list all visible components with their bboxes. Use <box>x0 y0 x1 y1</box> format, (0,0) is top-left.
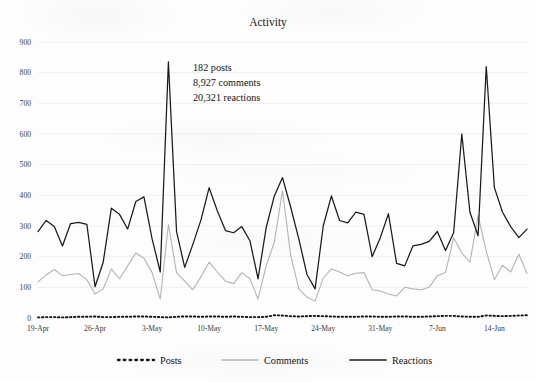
x-tick-label: 26-Apr <box>84 324 106 333</box>
activity-chart: Activity 0100200300400500600700800900 19… <box>0 0 537 382</box>
chart-svg: Activity 0100200300400500600700800900 19… <box>0 0 537 382</box>
chart-legend: PostsCommentsReactions <box>118 355 432 366</box>
y-tick-label: 600 <box>20 130 32 139</box>
legend-label-reactions: Reactions <box>392 355 432 366</box>
y-tick-label: 200 <box>20 252 32 261</box>
x-tick-label: 17-May <box>254 324 278 333</box>
x-tick-label: 19-Apr <box>27 324 49 333</box>
x-tick-label: 31-May <box>368 324 392 333</box>
y-tick-label: 100 <box>20 283 32 292</box>
annotation-posts: 182 posts <box>193 62 232 73</box>
x-tick-label: 3-May <box>142 324 162 333</box>
legend-label-posts: Posts <box>160 355 182 366</box>
legend-label-comments: Comments <box>264 355 308 366</box>
y-tick-label: 800 <box>20 68 32 77</box>
gridlines <box>38 42 527 318</box>
annotation-reactions: 20,321 reactions <box>193 92 260 103</box>
x-tick-label: 14-Jun <box>484 324 505 333</box>
series-line-reactions <box>38 62 527 289</box>
series-line-comments <box>38 191 527 301</box>
y-axis-tick-labels: 0100200300400500600700800900 <box>20 38 32 323</box>
x-tick-label: 10-May <box>197 324 221 333</box>
x-tick-label: 7-Jun <box>429 324 446 333</box>
series-line-posts <box>38 315 527 317</box>
summary-annotation: 182 posts 8,927 comments 20,321 reaction… <box>193 62 260 103</box>
y-tick-label: 700 <box>20 99 32 108</box>
series-lines <box>38 62 527 317</box>
annotation-comments: 8,927 comments <box>193 77 260 88</box>
x-tick-label: 24-May <box>311 324 335 333</box>
x-axis-tick-labels: 19-Apr26-Apr3-May10-May17-May24-May31-Ma… <box>27 324 505 333</box>
chart-title: Activity <box>249 16 287 29</box>
y-tick-label: 400 <box>20 191 32 200</box>
y-tick-label: 0 <box>27 314 31 323</box>
y-tick-label: 500 <box>20 160 32 169</box>
y-tick-label: 900 <box>20 38 32 47</box>
y-tick-label: 300 <box>20 222 32 231</box>
